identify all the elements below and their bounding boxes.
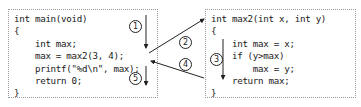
arrow-step-4 bbox=[151, 61, 204, 78]
step-5-badge: 5 bbox=[129, 72, 142, 85]
step-2-badge: 2 bbox=[179, 36, 192, 49]
step-3-badge: 3 bbox=[210, 53, 223, 66]
arrow-step-2 bbox=[149, 19, 204, 53]
step-4-badge: 4 bbox=[179, 58, 192, 71]
flow-arrows bbox=[0, 0, 361, 107]
step-1-badge: 1 bbox=[129, 20, 142, 33]
